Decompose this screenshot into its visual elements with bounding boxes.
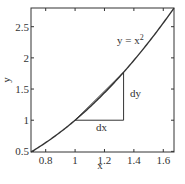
y-tick-label: 2	[24, 52, 30, 64]
dx-label: dx	[96, 121, 108, 133]
secant-line	[75, 72, 123, 120]
y-tick-label: 1.5	[15, 83, 29, 95]
x-tick-label: 1.6	[156, 154, 170, 166]
dx-dy-triangle	[75, 72, 123, 120]
y-tick-label: 1	[24, 114, 30, 126]
curve-label: y = x2	[117, 33, 144, 46]
x-tick-label: 0.8	[39, 154, 53, 166]
dy-label: dy	[130, 87, 142, 99]
x-tick-label: 1.4	[127, 154, 141, 166]
x-tick-label: 1	[72, 154, 78, 166]
chart: 0.811.21.41.6 0.511.522.5 y = x2 dx dy x…	[0, 0, 185, 184]
x-axis-label: x	[97, 159, 103, 171]
y-tick-label: 2.5	[15, 21, 29, 33]
y-tick-label: 0.5	[15, 145, 29, 157]
x-axis-ticks: 0.811.21.41.6	[39, 8, 171, 166]
y-axis-label: y	[0, 77, 12, 83]
